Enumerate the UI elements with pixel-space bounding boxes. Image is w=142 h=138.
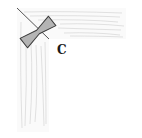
mitered-corner-diagram: C — [0, 0, 142, 138]
joint-label: C — [57, 44, 67, 56]
diagram-canvas — [0, 0, 142, 138]
